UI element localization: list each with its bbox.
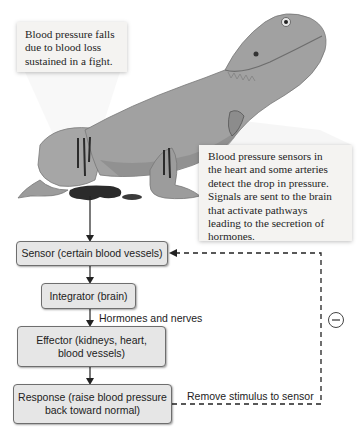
hormones-nerves-label: Hormones and nerves xyxy=(99,312,202,324)
callout-line: detect the drop in pressure. xyxy=(208,177,352,190)
callout-line: the heart and some arteries xyxy=(208,163,352,176)
callout-line: leading to the secretion of xyxy=(208,217,352,230)
effector-box: Effector (kidneys, heart, blood vessels) xyxy=(17,326,166,367)
callout-cause: Blood pressure falls due to blood loss s… xyxy=(17,22,127,72)
response-label-line: Response (raise blood pressure xyxy=(18,391,167,404)
effector-label-line: Effector (kidneys, heart, xyxy=(36,334,147,347)
response-label-line: back toward normal) xyxy=(45,404,140,417)
callout-line: sustained in a fight. xyxy=(25,55,127,68)
response-box: Response (raise blood pressure back towa… xyxy=(13,384,172,424)
negative-feedback-loop xyxy=(172,253,321,404)
callout-line: that activate pathways xyxy=(208,204,352,217)
callout-line: due to blood loss xyxy=(25,41,127,54)
callout-detection: Blood pressure sensors in the heart and … xyxy=(199,145,352,241)
callout-line: Blood pressure sensors in xyxy=(208,150,352,163)
feedback-arrowhead xyxy=(169,249,177,257)
effector-label-line: blood vessels) xyxy=(58,347,125,360)
callout-line: Signals are sent to the brain xyxy=(208,190,352,203)
integrator-box: Integrator (brain) xyxy=(41,283,136,309)
sensor-label: Sensor (certain blood vessels) xyxy=(21,247,162,260)
callout-line: hormones. xyxy=(208,230,352,243)
sensor-box: Sensor (certain blood vessels) xyxy=(16,241,168,266)
blood-pool xyxy=(69,186,121,201)
remove-stimulus-label: Remove stimulus to sensor xyxy=(187,390,314,402)
integrator-label: Integrator (brain) xyxy=(49,290,127,303)
callout-line: Blood pressure falls xyxy=(25,28,127,41)
